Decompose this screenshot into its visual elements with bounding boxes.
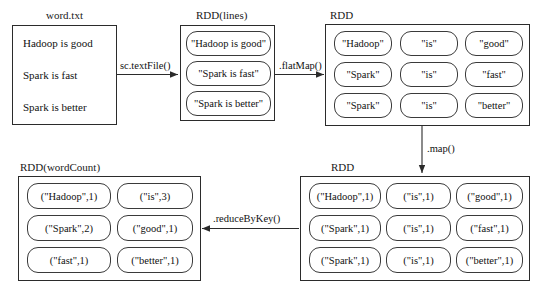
rdd-pairs-cell: ("is",1): [386, 183, 451, 209]
rdd-pairs-cell: ("fast",1): [456, 215, 523, 241]
source-file-line: Hadoop is good: [23, 37, 93, 49]
rdd-wordcount-cell: ("is",3): [117, 183, 193, 209]
rdd-lines-item: "Spark is fast": [186, 61, 271, 86]
rdd-pairs-cell: ("Spark",1): [309, 215, 381, 241]
rdd-wordcount-box: ("Hadoop",1) ("is",3) ("Spark",2) ("good…: [18, 176, 201, 281]
rdd-wordcount-cell: ("better",1): [117, 247, 193, 273]
edge-label-flatmap: .flatMap(): [278, 60, 323, 71]
rdd-pairs-cell: ("is",1): [386, 215, 451, 241]
edge-label-map: .map(): [426, 143, 456, 154]
rdd-lines-box: "Hadoop is good" "Spark is fast" "Spark …: [180, 25, 275, 121]
rdd-words-cell: "is": [400, 93, 458, 118]
rdd-pairs-cell: ("is",1): [386, 247, 451, 273]
rdd-lines-item: "Hadoop is good": [186, 31, 271, 56]
rdd-words-cell: "Spark": [334, 62, 392, 87]
diagram-canvas: word.txt Hadoop is good Spark is fast Sp…: [0, 0, 540, 293]
rdd-words-cell: "fast": [465, 62, 523, 87]
rdd-wordcount-caption: RDD(wordCount): [20, 161, 100, 173]
rdd-pairs-cell: ("Spark",1): [309, 247, 381, 273]
rdd-pairs-caption: RDD: [331, 161, 354, 173]
rdd-words-box: "Hadoop" "is" "good" "Spark" "is" "fast"…: [325, 24, 530, 126]
edge-label-reducebykey: .reduceByKey(): [212, 213, 281, 224]
rdd-words-cell: "Spark": [334, 93, 392, 118]
rdd-wordcount-cell: ("Spark",2): [27, 215, 111, 241]
rdd-words-cell: "Hadoop": [334, 31, 392, 56]
rdd-pairs-cell: ("good",1): [456, 183, 523, 209]
rdd-words-cell: "is": [400, 62, 458, 87]
rdd-wordcount-cell: ("Hadoop",1): [27, 183, 111, 209]
source-file-line: Spark is fast: [23, 69, 77, 81]
edge-label-textfile: sc.textFile(): [119, 60, 171, 71]
rdd-pairs-box: ("Hadoop",1) ("is",1) ("good",1) ("Spark…: [300, 176, 530, 281]
rdd-words-cell: "good": [465, 31, 523, 56]
rdd-words-cell: "is": [400, 31, 458, 56]
source-file-caption: word.txt: [46, 9, 83, 21]
rdd-lines-item: "Spark is better": [186, 91, 271, 116]
rdd-wordcount-cell: ("good",1): [117, 215, 193, 241]
source-file-box: Hadoop is good Spark is fast Spark is be…: [12, 25, 117, 125]
rdd-pairs-cell: ("Hadoop",1): [309, 183, 381, 209]
rdd-pairs-cell: ("better",1): [456, 247, 523, 273]
rdd-lines-caption: RDD(lines): [196, 9, 247, 21]
rdd-words-cell: "better": [465, 93, 523, 118]
rdd-words-caption: RDD: [330, 9, 353, 21]
source-file-line: Spark is better: [23, 101, 87, 113]
rdd-wordcount-cell: ("fast",1): [27, 247, 111, 273]
